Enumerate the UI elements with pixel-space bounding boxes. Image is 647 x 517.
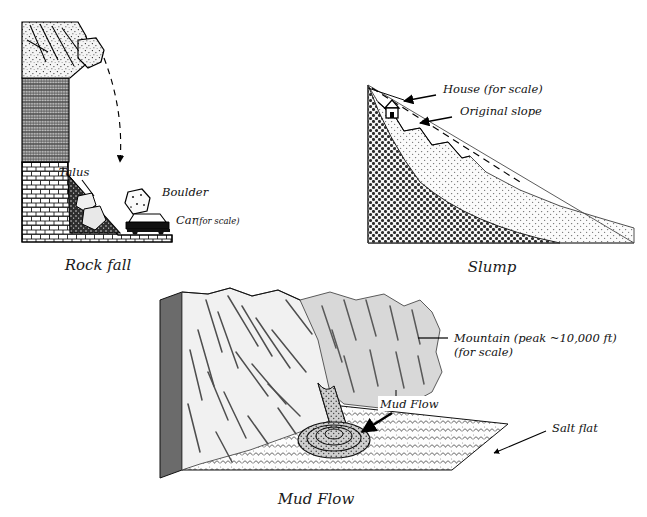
mud-flow-label: Mud Flow <box>379 397 439 411</box>
mountain-scale-label: (for scale) <box>454 345 513 359</box>
figure-root: Talus Boulder Car (for scale) Rock fall <box>0 0 647 517</box>
mountain-label: Mountain (peak ~10,000 ft) <box>453 331 617 345</box>
car-scale-label: (for scale) <box>196 216 240 226</box>
salt-flat-label: Salt flat <box>552 421 598 435</box>
talus-label: Talus <box>59 165 90 179</box>
mudflow-block-side <box>160 292 182 478</box>
original-slope-label: Original slope <box>460 104 542 118</box>
boulder-label: Boulder <box>161 185 210 199</box>
slump-caption: Slump <box>468 258 517 276</box>
rockfall-shale-layer <box>22 78 69 162</box>
mud-flow-caption: Mud Flow <box>277 490 355 508</box>
mass-wasting-diagram: Talus Boulder Car (for scale) Rock fall <box>0 0 647 517</box>
house-label: House (for scale) <box>442 82 543 96</box>
rock-fall-caption: Rock fall <box>64 256 132 274</box>
